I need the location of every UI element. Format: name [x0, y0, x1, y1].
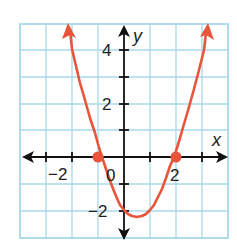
root-point-neg1: [93, 152, 104, 163]
x-axis: [22, 151, 228, 163]
tick-label-y-2: 2: [102, 95, 111, 114]
tick-label-y-neg2: −2: [88, 202, 107, 221]
tick-label-x-0: 0: [106, 166, 115, 185]
root-point-2: [171, 152, 182, 163]
parabola-graph: y x 4 2 −2 −2 0 2: [0, 0, 237, 251]
tick-label-x-2: 2: [170, 166, 179, 185]
y-axis: [118, 25, 130, 240]
y-axis-label: y: [131, 26, 143, 46]
tick-label-x-neg2: −2: [48, 165, 67, 184]
parabola-curve-line: [70, 30, 206, 217]
tick-label-y-4: 4: [102, 41, 111, 60]
curve-left-arrow-icon: [62, 23, 76, 39]
x-axis-label: x: [211, 130, 222, 150]
